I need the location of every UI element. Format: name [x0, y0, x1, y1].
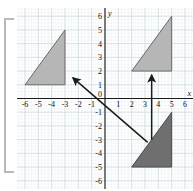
x-tick--2: -2: [75, 100, 82, 109]
figure-root: -6-5-4-3-2-1123456654321-1-2-3-4-5-60 xy: [0, 0, 193, 191]
x-tick-4: 4: [156, 100, 160, 109]
x-tick--6: -6: [22, 100, 29, 109]
plot-svg: -6-5-4-3-2-1123456654321-1-2-3-4-5-60 xy: [17, 8, 193, 189]
x-tick-6: 6: [183, 100, 187, 109]
y-tick--2: -2: [95, 122, 102, 131]
y-tick-4: 4: [98, 40, 102, 49]
x-tick--4: -4: [48, 100, 55, 109]
y-tick--5: -5: [95, 163, 102, 172]
y-tick-6: 6: [98, 12, 102, 21]
y-tick-5: 5: [98, 26, 102, 35]
coordinate-plane: -6-5-4-3-2-1123456654321-1-2-3-4-5-60 xy: [17, 8, 193, 189]
x-tick--3: -3: [62, 100, 69, 109]
x-tick-1: 1: [116, 100, 120, 109]
y-tick--6: -6: [95, 177, 102, 186]
x-tick--1: -1: [88, 100, 95, 109]
x-tick-3: 3: [143, 100, 147, 109]
origin-tick-0: 0: [98, 90, 102, 99]
y-tick--1: -1: [95, 108, 102, 117]
y-tick-2: 2: [98, 67, 102, 76]
x-tick--5: -5: [35, 100, 42, 109]
y-tick-1: 1: [98, 81, 102, 90]
x-tick-2: 2: [130, 100, 134, 109]
y-tick--4: -4: [95, 149, 102, 158]
y-axis-label: y: [107, 9, 112, 18]
x-axis-label: x: [186, 89, 191, 98]
y-tick-3: 3: [98, 53, 102, 62]
y-tick--3: -3: [95, 136, 102, 145]
x-tick-5: 5: [170, 100, 174, 109]
left-bracket-decoration: [4, 18, 14, 173]
